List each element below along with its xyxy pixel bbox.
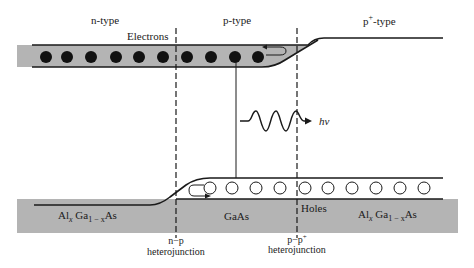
n-type-label: n-type: [91, 15, 119, 26]
np-junction-line2: heterojunction: [136, 247, 216, 257]
right-material-label: Alx Ga1 − xAs: [358, 209, 417, 223]
p-type-label: p-type: [223, 15, 251, 26]
one-minus-x-sub: 1 − x: [388, 214, 405, 223]
electrons-label: Electrons: [127, 31, 169, 42]
np-junction-label: n−p heterojunction: [136, 236, 216, 257]
p-plus-type-label: p+-type: [363, 14, 396, 27]
holes: [204, 182, 430, 194]
al-text: Al: [358, 208, 369, 220]
pp-junction-label: p−p+ heterojunction: [257, 234, 337, 255]
one-minus-x-sub: 1 − x: [88, 215, 105, 224]
al-text: Al: [58, 209, 69, 221]
pp-junction-line2: heterojunction: [257, 245, 337, 255]
p-plus-suffix: -type: [373, 15, 396, 27]
photon-wave-icon: [240, 111, 308, 131]
photon-label: hν: [319, 116, 329, 127]
center-material-label: GaAs: [224, 211, 249, 222]
conduction-band-top-line: [32, 38, 443, 45]
ga-text: Ga: [373, 208, 389, 220]
left-material-label: Alx Ga1 − xAs: [58, 210, 117, 224]
ga-text: Ga: [73, 209, 89, 221]
band-diagram-canvas: [0, 0, 474, 268]
holes-label: Holes: [301, 203, 327, 214]
as-text: As: [105, 209, 117, 221]
np-junction-line1: n−p: [136, 236, 216, 246]
as-text: As: [405, 208, 417, 220]
